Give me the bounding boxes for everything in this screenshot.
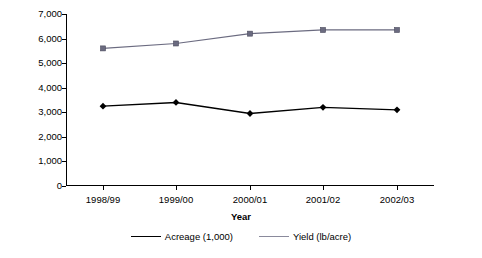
square-marker-icon [248, 31, 253, 36]
chart-legend: Acreage (1,000) Yield (lb/acre) [0, 231, 482, 242]
legend-label-yield: Yield (lb/acre) [293, 231, 351, 242]
diamond-marker-icon [394, 106, 401, 113]
square-marker-icon [321, 27, 326, 32]
square-marker-icon [174, 41, 179, 46]
legend-swatch-acreage [131, 232, 161, 241]
square-marker-icon [395, 27, 400, 32]
legend-item-yield: Yield (lb/acre) [259, 231, 351, 242]
square-marker-icon [101, 46, 106, 51]
diamond-marker-icon [173, 99, 180, 106]
x-axis-title: Year [0, 211, 482, 222]
series-yield [101, 27, 400, 50]
series-acreage [100, 99, 401, 117]
legend-swatch-yield [259, 232, 289, 241]
diamond-marker-icon [247, 110, 254, 117]
diamond-marker-icon [100, 103, 107, 110]
legend-item-acreage: Acreage (1,000) [131, 231, 233, 242]
legend-label-acreage: Acreage (1,000) [165, 231, 233, 242]
line-chart: 0 1,000 2,000 3,000 4,000 5,000 6,000 7,… [0, 0, 482, 258]
diamond-marker-icon [320, 104, 327, 111]
